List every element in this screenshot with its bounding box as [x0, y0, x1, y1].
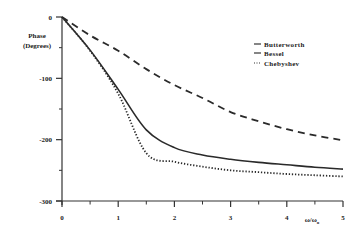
x-tick-label: 0: [60, 214, 64, 222]
phase-response-chart: 0-100-200-300 012345 Phase (Degrees) ω/ω…: [0, 0, 363, 242]
series-line-butterworth: [62, 17, 343, 140]
y-tick-label: 0: [49, 14, 53, 22]
x-tick-label: 5: [341, 214, 345, 222]
legend-item-bessel: Bessel: [254, 50, 284, 58]
x-tick-label: 4: [285, 214, 289, 222]
x-tick-label: 3: [229, 214, 233, 222]
y-tick-label: -200: [39, 136, 52, 144]
y-tick-label: -300: [39, 198, 52, 206]
x-tick-label: 2: [173, 214, 177, 222]
legend-label-chebyshev: Chebyshev: [264, 60, 300, 68]
y-tick-label: -100: [39, 75, 52, 83]
legend-item-butterworth: Butterworth: [254, 41, 305, 49]
x-axis-title: ω/ωo: [305, 216, 320, 225]
y-axis-title-line-2: (Degrees): [23, 42, 52, 50]
legend: Butterworth Bessel Chebyshev: [254, 41, 305, 68]
y-axis-title-line-1: Phase: [28, 32, 46, 40]
x-ticks: 012345: [60, 201, 345, 222]
x-tick-label: 1: [116, 214, 120, 222]
legend-label-bessel: Bessel: [264, 50, 284, 58]
legend-item-chebyshev: Chebyshev: [254, 60, 300, 68]
legend-label-butterworth: Butterworth: [264, 41, 305, 49]
